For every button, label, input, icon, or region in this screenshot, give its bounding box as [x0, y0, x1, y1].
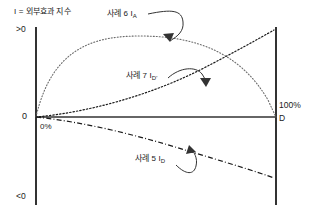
curve-case5-ID	[36, 117, 274, 178]
annotation-case7-text: 사례 7 I	[126, 71, 152, 80]
y-axis-title: I = 외부효과 지수	[14, 8, 71, 16]
x-axis-endpoint-label: D	[279, 114, 285, 123]
annotation-case6-label: 사례 6 IA	[107, 10, 137, 18]
x-axis-left-tick-label: 0%	[40, 123, 52, 131]
annotation-case7-label: 사례 7 ID'	[126, 72, 157, 80]
annotation-case5-subscript: D	[161, 158, 165, 164]
annotation-case6-text: 사례 6 I	[107, 9, 133, 18]
annotation-case5-label: 사례 5 ID	[135, 155, 165, 163]
y-axis-top-tick-label: >0	[16, 25, 26, 34]
annotation-case5-text: 사례 5 I	[135, 154, 161, 163]
y-axis-zero-tick-label: 0	[22, 112, 27, 121]
chart-plot-area	[0, 0, 317, 218]
annotation-case7-subscript: D'	[152, 75, 158, 81]
externality-index-chart: I = 외부효과 지수 >0 0 <0 0% 100% D 사례 6 IA 사례…	[0, 0, 317, 218]
leader-case5	[176, 145, 197, 173]
leader-case7	[168, 69, 211, 87]
y-axis-bottom-tick-label: <0	[16, 192, 26, 201]
annotation-case6-subscript: A	[133, 13, 137, 19]
x-axis-right-tick-label: 100%	[279, 101, 301, 110]
